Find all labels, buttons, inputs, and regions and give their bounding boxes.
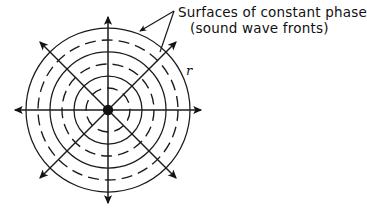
- ray-northwest: [40, 42, 108, 110]
- caption-leader-line-upper: [140, 11, 174, 31]
- diagram-canvas: Surfaces of constant phase (sound wave f…: [0, 0, 367, 218]
- wavefront-diagram-figure: Surfaces of constant phase (sound wave f…: [0, 0, 367, 218]
- caption-line-1: Surfaces of constant phase: [178, 4, 367, 20]
- ray-southwest: [40, 110, 108, 178]
- caption-line-2: (sound wave fronts): [190, 20, 329, 36]
- ray-northeast: [108, 42, 176, 110]
- caption-leader-group: [140, 11, 174, 52]
- radius-label-r: r: [186, 63, 193, 78]
- point-source-dot: [103, 105, 113, 115]
- ray-southeast: [108, 110, 176, 178]
